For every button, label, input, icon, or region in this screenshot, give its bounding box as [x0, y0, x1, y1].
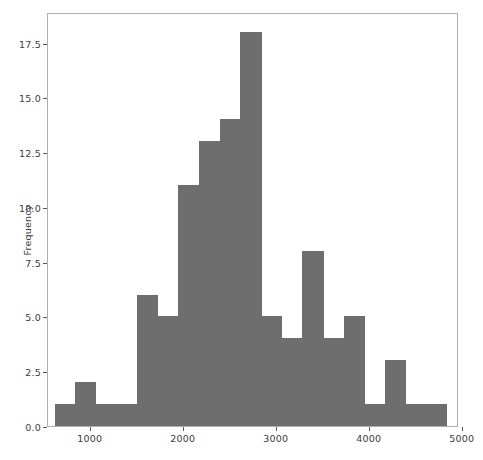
y-axis-tick-label: 2.5: [25, 367, 41, 378]
histogram-bar: [302, 251, 323, 426]
histogram-bar: [55, 404, 76, 426]
plot-axes: [47, 13, 458, 427]
histogram-bar: [220, 119, 241, 426]
histogram-bar: [240, 32, 261, 426]
histogram-bar: [199, 141, 220, 426]
x-axis-tick-label: 1000: [77, 433, 102, 444]
x-axis-tick: [183, 427, 184, 431]
x-axis-tick-label: 2000: [170, 433, 195, 444]
histogram-bar: [261, 316, 282, 426]
histogram-bar: [178, 185, 199, 426]
histogram-bar: [96, 404, 117, 426]
histogram-bars: [48, 14, 457, 426]
y-axis-tick-label: 12.5: [19, 148, 41, 159]
histogram-bar: [344, 316, 365, 426]
histogram-bar: [426, 404, 447, 426]
histogram-bar: [137, 295, 158, 426]
histogram-bar: [323, 338, 344, 426]
y-axis-tick-label: 0.0: [25, 422, 41, 433]
x-axis-tick-label: 5000: [449, 433, 474, 444]
x-axis-tick-label: 3000: [263, 433, 288, 444]
histogram-bar: [364, 404, 385, 426]
y-axis-tick-label: 7.5: [25, 257, 41, 268]
y-axis-tick-label: 17.5: [19, 38, 41, 49]
x-axis-tick: [276, 427, 277, 431]
histogram-bar: [75, 382, 96, 426]
histogram-bar: [385, 360, 406, 426]
x-axis-tick: [369, 427, 370, 431]
y-axis-tick-label: 15.0: [19, 93, 41, 104]
y-axis-tick-label: 10.0: [19, 202, 41, 213]
histogram-figure: Frequency 0.02.55.07.510.012.515.017.5 1…: [0, 0, 483, 460]
histogram-bar: [117, 404, 138, 426]
x-axis-tick: [90, 427, 91, 431]
x-axis-tick-label: 4000: [356, 433, 381, 444]
y-axis-tick-label: 5.0: [25, 312, 41, 323]
histogram-bar: [282, 338, 303, 426]
y-axis-tick: [43, 427, 47, 428]
histogram-bar: [406, 404, 427, 426]
x-axis-tick: [462, 427, 463, 431]
histogram-bar: [158, 316, 179, 426]
